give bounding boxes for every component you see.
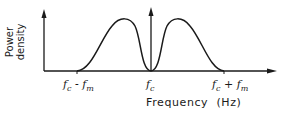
- carrier-arrow-icon: [149, 7, 154, 16]
- tick-label-fc: fc: [146, 78, 155, 93]
- tick-label-fc-minus-fm: fc - fm: [63, 78, 94, 93]
- y-axis-arrow-icon: [42, 9, 47, 18]
- y-label-line2: density: [15, 20, 26, 64]
- power-spectrum-diagram: Power density fc - fm fc fc + fm Frequen…: [0, 0, 294, 114]
- y-axis-label: Power density: [4, 20, 26, 64]
- y-label-line1: Power: [4, 20, 15, 64]
- x-axis-label: Frequency (Hz): [146, 96, 241, 109]
- x-axis-arrow-icon: [267, 69, 277, 74]
- tick-label-fc-plus-fm: fc + fm: [212, 78, 248, 93]
